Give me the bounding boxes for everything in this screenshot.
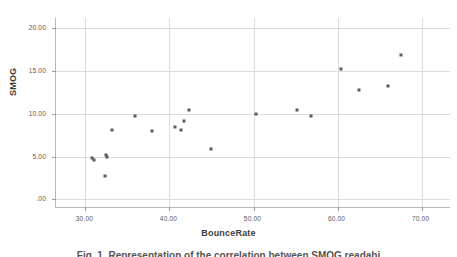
x-tick-label: 30.00 [76,215,93,222]
x-tick-label: 60.00 [328,215,345,222]
scatter-point [182,119,185,122]
y-tick-mark [52,199,56,200]
scatter-chart: SMOG BounceRate .005.0010.0015.0020.0030… [0,0,457,240]
scatter-point [134,114,137,117]
scatter-point [111,129,114,132]
x-tick-label: 40.00 [160,215,177,222]
y-axis-title: SMOG [8,68,18,96]
scatter-point [150,129,153,132]
scatter-point [106,155,109,158]
x-gridline [169,18,170,207]
y-tick-mark [52,157,56,158]
x-tick-label: 50.00 [244,215,261,222]
x-tick-mark [169,207,170,211]
y-tick-label: 5.00 [33,153,46,160]
figure-container: SMOG BounceRate .005.0010.0015.0020.0030… [0,0,457,257]
scatter-point [339,68,342,71]
scatter-point [187,108,190,111]
scatter-point [209,147,212,150]
y-tick-label: 10.00 [29,110,46,117]
scatter-point [386,84,389,87]
x-gridline [85,18,86,207]
scatter-point [180,129,183,132]
scatter-point [309,114,312,117]
figure-caption: Fig. 1. Representation of the correlatio… [0,250,457,257]
scatter-point [173,125,176,128]
x-tick-mark [85,207,86,211]
x-gridline [422,18,423,207]
scatter-point [92,159,95,162]
scatter-point [358,88,361,91]
x-tick-mark [254,207,255,211]
y-tick-mark [52,114,56,115]
y-tick-label: 15.00 [29,67,46,74]
y-tick-label: 20.00 [29,24,46,31]
plot-area [55,18,450,208]
scatter-point [296,108,299,111]
scatter-point [255,112,258,115]
scatter-point [103,175,106,178]
x-tick-mark [422,207,423,211]
y-tick-label: .00 [36,195,46,202]
x-tick-label: 70.00 [412,215,429,222]
x-tick-mark [338,207,339,211]
x-axis-title: BounceRate [0,228,457,238]
y-tick-mark [52,28,56,29]
scatter-point [400,53,403,56]
y-tick-mark [52,71,56,72]
x-gridline [338,18,339,207]
